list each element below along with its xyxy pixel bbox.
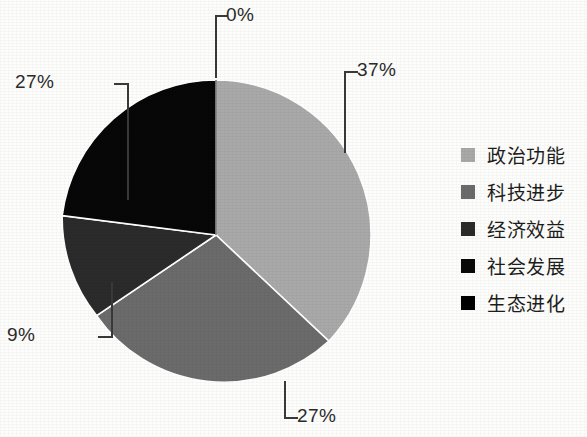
legend-label: 社会发展 (487, 252, 565, 279)
legend-swatch-icon (461, 259, 475, 273)
leader-line-37pct (345, 72, 358, 153)
legend-swatch-icon (461, 148, 475, 162)
legend-item-zhengzhigongneng[interactable]: 政治功能 (461, 136, 585, 173)
pie-slice-shehuifazhan (62, 80, 216, 235)
legend-item-kejijinbu[interactable]: 科技进步 (461, 173, 585, 210)
legend-item-shehuifazhan[interactable]: 社会发展 (461, 247, 585, 284)
value-label-27pct-bottom: 27% (297, 405, 336, 427)
chart-legend: 政治功能 科技进步 经济效益 社会发展 生态进化 (461, 136, 585, 321)
legend-item-jingjixiaoyi[interactable]: 经济效益 (461, 210, 585, 247)
legend-label: 生态进化 (487, 289, 565, 316)
value-label-0pct: 0% (226, 4, 254, 26)
legend-label: 经济效益 (487, 215, 565, 242)
value-label-9pct: 9% (7, 324, 35, 346)
legend-swatch-icon (461, 296, 475, 310)
legend-swatch-icon (461, 222, 475, 236)
value-label-37pct: 37% (357, 59, 396, 81)
legend-label: 政治功能 (487, 141, 565, 168)
legend-item-shengtaijinhua[interactable]: 生态进化 (461, 284, 585, 321)
legend-swatch-icon (461, 185, 475, 199)
pie-chart-figure: 0% 37% 27% 9% 27% 政治功能 科技进步 经济效益 社会发展 生态… (0, 0, 587, 437)
legend-label: 科技进步 (487, 178, 565, 205)
value-label-27pct-top: 27% (15, 71, 54, 93)
